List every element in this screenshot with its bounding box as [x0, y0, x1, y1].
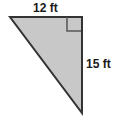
dimension-label-right: 15 ft	[86, 58, 111, 71]
dimension-label-top: 12 ft	[33, 2, 58, 15]
figure-container: 12 ft 15 ft	[0, 0, 114, 118]
